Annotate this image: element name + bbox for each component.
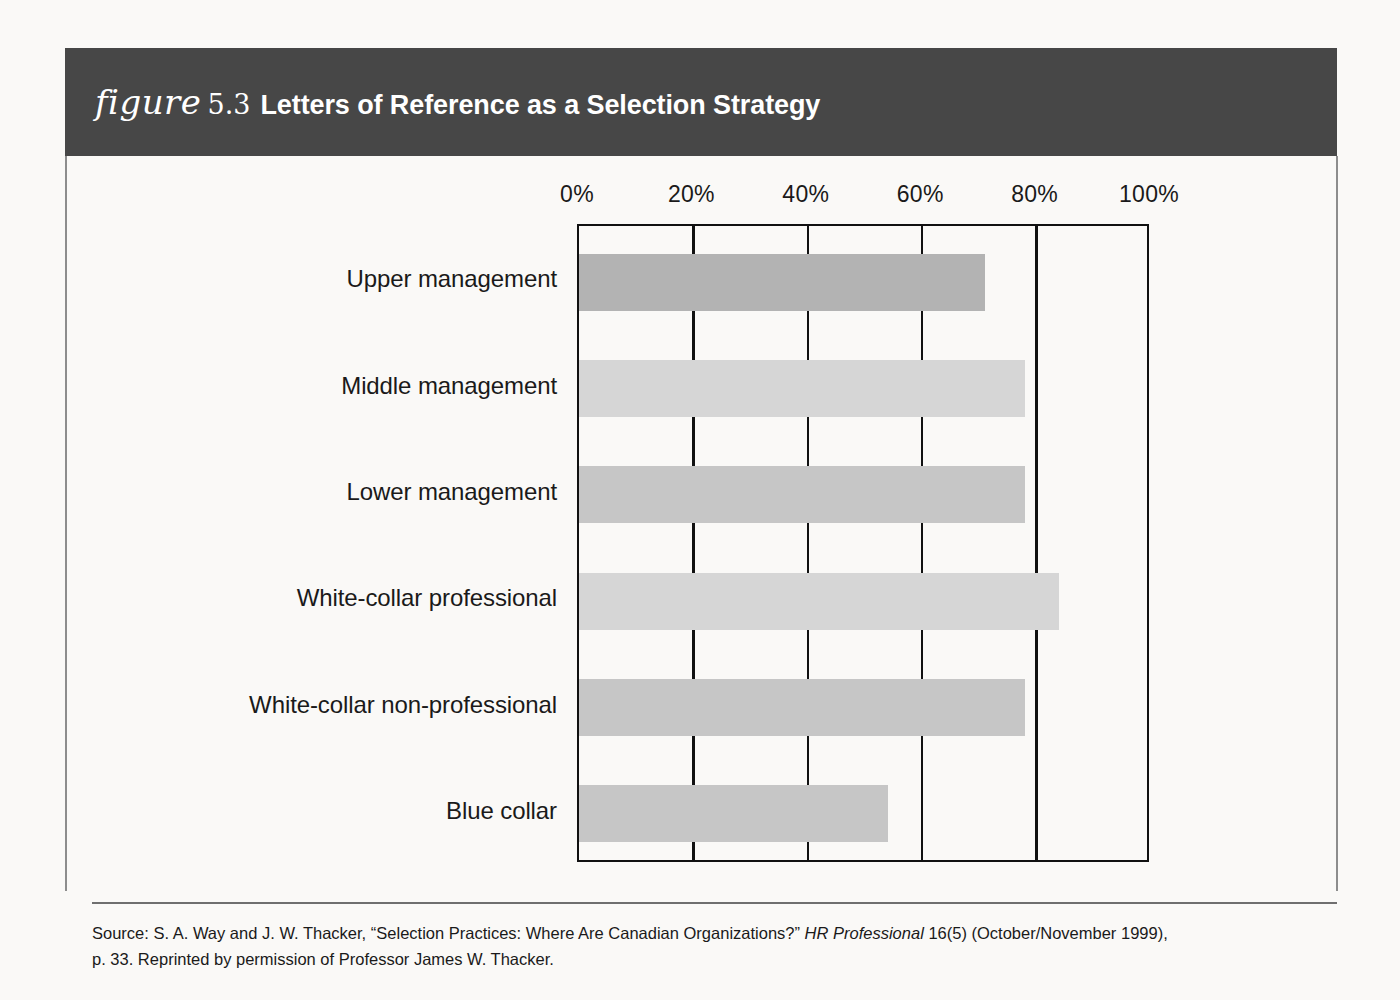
- gridline-60: [921, 226, 924, 860]
- bar: [579, 466, 1025, 523]
- category-label: White-collar professional: [297, 584, 557, 612]
- category-label: Upper management: [346, 265, 557, 293]
- gridline-20: [692, 226, 695, 860]
- bar: [579, 573, 1059, 630]
- bar: [579, 360, 1025, 417]
- bar: [579, 679, 1025, 736]
- category-label: White-collar non-professional: [249, 691, 557, 719]
- category-axis-labels: Upper managementMiddle managementLower m…: [120, 224, 557, 862]
- gridline-80: [1035, 226, 1038, 860]
- source-line-2: p. 33. Reprinted by permission of Profes…: [92, 950, 554, 968]
- x-tick-label: 60%: [897, 181, 944, 208]
- plot-area: [577, 224, 1149, 862]
- bar: [579, 254, 985, 311]
- x-tick-label: 20%: [668, 181, 715, 208]
- x-tick-label: 80%: [1011, 181, 1058, 208]
- source-line-1: Source: S. A. Way and J. W. Thacker, “Se…: [92, 924, 1168, 942]
- x-tick-label: 100%: [1119, 181, 1179, 208]
- source-note: Source: S. A. Way and J. W. Thacker, “Se…: [92, 920, 1342, 972]
- gridline-40: [807, 226, 810, 860]
- source-divider: [92, 902, 1337, 904]
- source-prefix: Source: S. A. Way and J. W. Thacker, “Se…: [92, 924, 805, 942]
- bar-chart: Upper managementMiddle managementLower m…: [0, 0, 1400, 1000]
- figure-container: figure5.3Letters of Reference as a Selec…: [0, 0, 1400, 1000]
- category-label: Blue collar: [446, 797, 557, 825]
- x-tick-label: 0%: [560, 181, 594, 208]
- source-suffix: 16(5) (October/November 1999),: [924, 924, 1168, 942]
- category-label: Middle management: [341, 372, 557, 400]
- category-label: Lower management: [346, 478, 557, 506]
- bar: [579, 785, 888, 842]
- x-tick-label: 40%: [782, 181, 829, 208]
- source-journal: HR Professional: [805, 924, 924, 942]
